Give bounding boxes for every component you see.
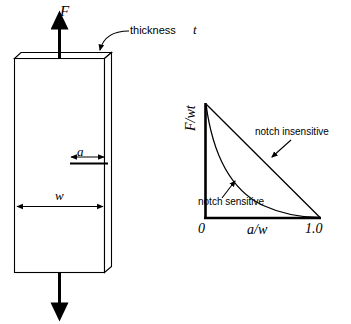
figure-canvas [0, 0, 351, 324]
annotation-arrow-notch-insensitive [272, 140, 291, 157]
chart-xtick-1: 1.0 [305, 221, 323, 237]
annotation-label-notch-insensitive: notch insensitive [255, 126, 329, 137]
width-label: w [55, 188, 64, 204]
crack-length-label: a [77, 144, 84, 160]
plate-top-face [15, 53, 112, 59]
plate-front-face [15, 59, 105, 273]
force-label: F [60, 3, 69, 20]
thickness-leader-line [100, 31, 129, 50]
thickness-symbol-label: t [193, 22, 197, 38]
chart-xtick-0: 0 [198, 221, 205, 237]
chart-y-axis-label: F/wt [183, 105, 199, 131]
chart-x-axis-label: a/w [247, 222, 267, 238]
annotation-label-notch-sensitive: notch sensitive [198, 196, 264, 207]
thickness-label: thickness [130, 24, 176, 36]
